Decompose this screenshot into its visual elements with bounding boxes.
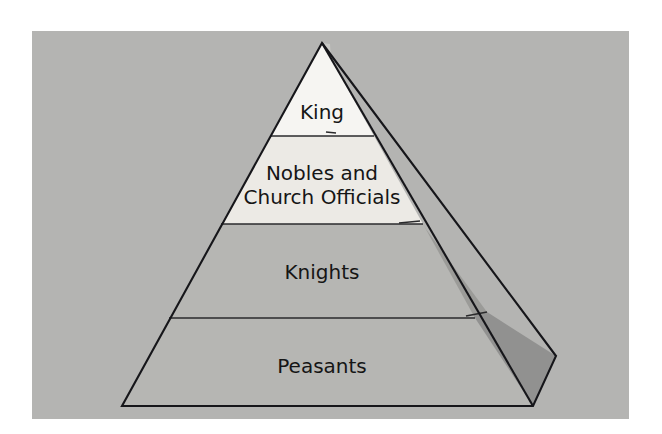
side-divider-king-nobles	[326, 132, 336, 133]
figure-root: King Nobles and Church Officials Knights…	[0, 0, 662, 434]
tier-label-king: King	[300, 100, 344, 124]
feudal-hierarchy-pyramid: King Nobles and Church Officials Knights…	[0, 0, 662, 434]
tier-label-nobles: Nobles and	[266, 161, 378, 185]
tier-label-peasants: Peasants	[277, 354, 367, 378]
tier-label-nobles-line2: Church Officials	[244, 185, 401, 209]
tier-label-knights: Knights	[285, 260, 360, 284]
